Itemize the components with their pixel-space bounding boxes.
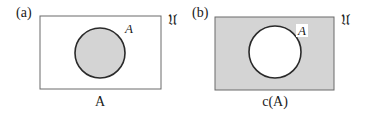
panel-a-diagram	[40, 16, 161, 89]
set-label-a: A	[125, 22, 133, 35]
set-a-circle	[75, 28, 125, 78]
caption-a: A	[90, 95, 110, 109]
universe-label-a: 𝔘	[168, 14, 177, 28]
caption-b: c(A)	[257, 95, 293, 109]
set-a-circle-complement	[249, 26, 301, 78]
panel-label-a: (a)	[16, 6, 32, 20]
panel-label-b: (b)	[192, 6, 208, 20]
venn-diagrams	[0, 0, 368, 114]
set-label-b: A	[296, 24, 308, 37]
universe-label-b: 𝔘	[341, 14, 350, 28]
panel-b-diagram	[215, 17, 334, 90]
